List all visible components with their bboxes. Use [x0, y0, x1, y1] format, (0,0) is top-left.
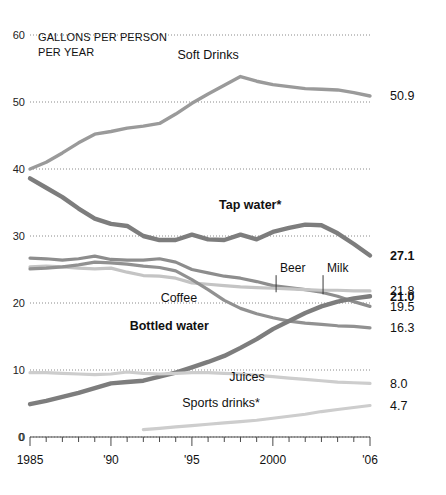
data-series-group — [30, 77, 370, 430]
series-label-tap-water: Tap water* — [219, 198, 281, 212]
x-axis-tick-label: '06 — [362, 453, 378, 467]
y-axis-ticks: 0102030405060 — [13, 29, 25, 443]
y-axis-tick-label: 50 — [13, 96, 25, 108]
series-label-coffee: Coffee — [161, 291, 198, 305]
y-axis-zero-label: 0 — [18, 431, 24, 443]
end-value-sports-drinks: 4.7 — [390, 399, 407, 413]
end-value-juices: 8.0 — [390, 377, 407, 391]
x-axis-tick-label: 1985 — [17, 453, 44, 467]
y-axis-tick-label: 40 — [13, 163, 25, 175]
end-value-labels: 50.927.119.521.816.321.08.04.7 — [390, 89, 414, 413]
y-axis-tick-label: 60 — [13, 29, 25, 41]
series-label-sports-drinks: Sports drinks* — [182, 396, 260, 410]
series-label-beer: Beer — [280, 261, 305, 275]
series-line-juices — [30, 372, 370, 383]
y-axis-tick-label: 20 — [13, 297, 25, 309]
series-label-soft-drinks: Soft Drinks — [178, 48, 239, 62]
series-label-bottled-water: Bottled water — [130, 319, 209, 333]
series-line-soft-drinks — [30, 77, 370, 169]
end-value-soft-drinks: 50.9 — [390, 89, 414, 103]
series-line-bottled-water — [30, 296, 370, 404]
x-axis: 1985'90'952000'060 — [17, 431, 378, 467]
end-value-bottled-water: 21.0 — [390, 290, 414, 304]
y-axis-tick-label: 30 — [13, 230, 25, 242]
beverage-consumption-chart: 0102030405060 Soft DrinksTap water*MilkB… — [0, 0, 446, 495]
series-label-juices: Juices — [229, 370, 264, 384]
chart-canvas: 0102030405060 Soft DrinksTap water*MilkB… — [0, 0, 446, 495]
series-label-milk: Milk — [327, 261, 349, 275]
x-axis-tick-label: 2000 — [260, 453, 287, 467]
end-value-coffee: 16.3 — [390, 321, 414, 335]
y-axis-tick-label: 10 — [13, 364, 25, 376]
unit-header-line1: GALLONS PER PERSON — [38, 31, 167, 43]
series-line-tap-water — [30, 178, 370, 255]
x-axis-tick-label: '90 — [103, 453, 119, 467]
x-axis-tick-label: '95 — [184, 453, 200, 467]
end-value-tap-water: 27.1 — [390, 249, 414, 263]
unit-header-line2: PER YEAR — [38, 46, 94, 58]
